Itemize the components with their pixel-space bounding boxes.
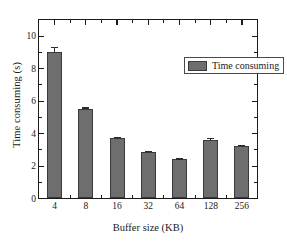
legend-swatch-icon	[188, 61, 207, 71]
error-bar-cap	[145, 151, 152, 152]
x-tick-label: 256	[235, 201, 249, 212]
y-tick-major-right	[252, 166, 257, 167]
y-tick-minor-right	[254, 84, 257, 85]
error-bar-cap	[114, 137, 121, 138]
x-tick-minor	[70, 195, 71, 198]
x-tick-label: 128	[204, 201, 218, 212]
y-tick-major	[39, 68, 44, 69]
y-tick-minor	[39, 84, 42, 85]
x-tick-major-top	[210, 20, 211, 25]
bar	[172, 159, 187, 198]
plot-area: 0246810 48163264128256	[39, 20, 257, 198]
legend-label: Time consuming	[212, 60, 279, 71]
x-tick-minor	[132, 195, 133, 198]
bar	[203, 140, 218, 198]
y-tick-minor	[39, 182, 42, 183]
y-tick-minor-right	[254, 52, 257, 53]
y-tick-minor-right	[254, 117, 257, 118]
y-tick-minor-right	[254, 182, 257, 183]
y-tick-major	[39, 36, 44, 37]
y-tick-label: 8	[31, 64, 36, 74]
y-tick-label: 0	[31, 194, 36, 204]
x-tick-minor-top	[132, 20, 133, 23]
x-tick-minor-top	[163, 20, 164, 23]
x-tick-major-top	[54, 20, 55, 25]
x-tick-major-top	[148, 20, 149, 25]
y-tick-major	[39, 166, 44, 167]
x-tick-minor-top	[70, 20, 71, 23]
x-tick-major-top	[241, 20, 242, 25]
x-tick-major-top	[116, 20, 117, 25]
error-bar-cap	[176, 158, 183, 159]
x-tick-minor	[195, 195, 196, 198]
x-tick-minor	[226, 195, 227, 198]
y-tick-major	[39, 133, 44, 134]
bar	[110, 138, 125, 198]
bar	[78, 109, 93, 198]
y-axis-title: Time consuming (s)	[10, 10, 24, 200]
x-tick-minor	[101, 195, 102, 198]
bar-chart-figure: Time consuming (s) 0246810 4816326412825…	[0, 0, 287, 247]
x-tick-minor-top	[195, 20, 196, 23]
y-tick-label: 10	[27, 31, 37, 41]
bar	[234, 146, 249, 198]
x-tick-label: 64	[175, 201, 185, 212]
error-bar-cap	[238, 145, 245, 146]
error-bar-cap	[82, 107, 89, 108]
y-tick-major-right	[252, 101, 257, 102]
error-bar-cap	[51, 47, 58, 48]
y-tick-major	[39, 101, 44, 102]
x-tick-minor-top	[226, 20, 227, 23]
y-tick-label: 6	[31, 96, 36, 106]
x-tick-label: 4	[52, 201, 57, 212]
y-tick-major-right	[252, 36, 257, 37]
chart-legend: Time consuming	[184, 57, 284, 74]
y-tick-major-right	[252, 198, 257, 199]
y-tick-major	[39, 198, 44, 199]
y-tick-minor	[39, 117, 42, 118]
y-tick-minor	[39, 149, 42, 150]
x-tick-minor-top	[101, 20, 102, 23]
x-tick-label: 32	[144, 201, 154, 212]
y-tick-label: 2	[31, 161, 36, 171]
x-tick-label: 16	[112, 201, 122, 212]
x-tick-major-top	[179, 20, 180, 25]
y-tick-label: 4	[31, 129, 36, 139]
error-bar-cap	[207, 138, 214, 139]
bar	[47, 52, 62, 198]
x-axis-title: Buffer size (KB)	[38, 222, 258, 234]
y-tick-major-right	[252, 133, 257, 134]
x-tick-label: 8	[83, 201, 88, 212]
x-tick-major-top	[85, 20, 86, 25]
y-tick-minor	[39, 52, 42, 53]
y-tick-minor-right	[254, 149, 257, 150]
plot-frame: 0246810 48163264128256 Time consuming	[38, 19, 258, 199]
x-tick-minor	[163, 195, 164, 198]
bar	[141, 152, 156, 198]
